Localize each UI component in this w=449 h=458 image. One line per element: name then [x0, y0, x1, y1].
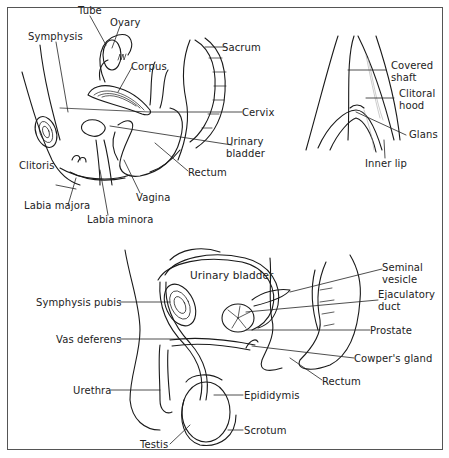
label-clitoris: Clitoris [19, 160, 54, 171]
label-inner-lip: Inner lip [365, 158, 407, 169]
label-corpus: Corpus [131, 61, 167, 72]
anatomy-illustration [0, 0, 449, 458]
label-scrotum: Scrotum [244, 425, 287, 436]
label-urinary-bladder-female-2: bladder [226, 148, 265, 159]
label-clitoral-hood-1: Clitoral [399, 88, 435, 99]
label-labia-minora: Labia minora [87, 214, 154, 225]
female-external-drawing [306, 36, 400, 152]
label-covered-shaft-1: Covered [391, 60, 433, 71]
label-epididymis: Epididymis [244, 390, 300, 401]
label-glans: Glans [409, 129, 438, 140]
label-ovary: Ovary [110, 17, 140, 28]
label-ejaculatory-duct-1: Ejaculatory [378, 289, 435, 300]
label-urethra: Urethra [73, 385, 112, 396]
label-tube: Tube [78, 5, 102, 16]
label-sacrum: Sacrum [222, 42, 261, 53]
label-clitoral-hood-2: hood [399, 100, 424, 111]
label-rectum-male: Rectum [322, 376, 361, 387]
label-vagina: Vagina [136, 192, 170, 203]
label-urinary-bladder-male: Urinary bladder [190, 270, 274, 281]
label-rectum-female: Rectum [188, 167, 227, 178]
label-symphysis-pubis: Symphysis pubis [36, 297, 122, 308]
label-testis: Testis [140, 439, 168, 450]
label-cervix: Cervix [242, 107, 274, 118]
label-urinary-bladder-female-1: Urinary [226, 136, 263, 147]
label-symphysis: Symphysis [28, 31, 83, 42]
label-seminal-vesicle-1: Seminal [382, 262, 423, 273]
label-prostate: Prostate [370, 325, 412, 336]
label-labia-majora: Labia majora [24, 200, 90, 211]
label-vas-deferens: Vas deferens [56, 334, 122, 345]
label-cowpers-gland: Cowper's gland [354, 353, 432, 364]
label-ejaculatory-duct-2: duct [378, 301, 401, 312]
label-covered-shaft-2: shaft [391, 72, 416, 83]
label-seminal-vesicle-2: vesicle [382, 274, 417, 285]
